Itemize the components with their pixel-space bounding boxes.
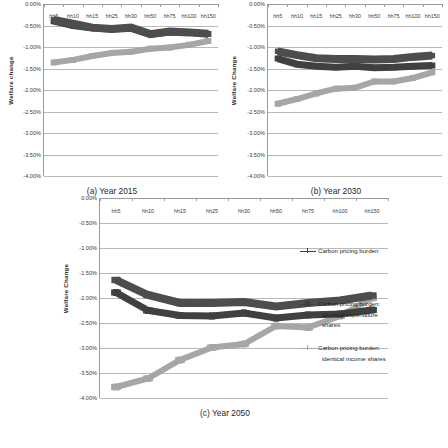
- legend-marker-square-icon: [300, 300, 316, 308]
- legend-marker-plus-icon: [300, 344, 316, 352]
- data-point-marker: [128, 49, 134, 55]
- data-point-marker: [410, 75, 416, 81]
- data-point-marker: [313, 63, 319, 69]
- legend-label: Carbon pricing burden:identical income s…: [318, 343, 386, 364]
- data-point-marker: [175, 300, 184, 306]
- y-tick-label: -2.00%: [247, 87, 265, 93]
- y-tick-label: -1.50%: [23, 66, 41, 72]
- series-2: [51, 17, 211, 37]
- y-tick-labels-b: 0.00%-0.50%-1.00%-1.50%-2.00%-2.50%-3.00…: [240, 4, 267, 176]
- data-point-marker: [294, 96, 300, 102]
- data-point-marker: [429, 63, 435, 69]
- data-point-marker: [352, 85, 358, 91]
- y-tick-labels-a: 0.00%-0.50%-1.00%-1.50%-2.00%-2.50%-3.00…: [16, 4, 43, 176]
- y-tick-label: -2.50%: [23, 109, 41, 115]
- panel-caption-a: (a) Year 2015: [4, 186, 220, 196]
- data-point-marker: [51, 17, 57, 23]
- y-tick-label: -1.00%: [247, 44, 265, 50]
- data-point-marker: [206, 31, 212, 37]
- y-tick-label: -3.00%: [247, 130, 265, 136]
- y-tick-label: 0.00%: [25, 1, 41, 7]
- gridline: [44, 176, 218, 177]
- data-point-marker: [271, 323, 281, 330]
- data-point-marker: [313, 91, 319, 97]
- data-point-marker: [275, 56, 281, 62]
- y-axis-label-a: Welfare change: [4, 4, 16, 156]
- data-point-marker: [333, 86, 339, 92]
- y-tick-label: -1.50%: [247, 66, 265, 72]
- data-point-marker: [89, 53, 95, 59]
- x-tickmark: [218, 4, 219, 7]
- data-point-marker: [430, 53, 436, 59]
- data-point-marker: [207, 344, 217, 351]
- y-tick-label: -4.00%: [79, 395, 97, 401]
- y-tick-label: -3.00%: [23, 130, 41, 136]
- y-tick-label: -0.50%: [23, 23, 41, 29]
- data-point-marker: [70, 57, 76, 63]
- y-tick-label: -1.00%: [79, 245, 97, 251]
- data-point-marker: [429, 69, 435, 75]
- y-axis-label-c: Welfare Change: [60, 198, 72, 378]
- data-point-marker: [51, 60, 57, 66]
- data-point-marker: [175, 312, 185, 319]
- series-canvas-b: [268, 4, 442, 176]
- panel-year-2015: Welfare change 0.00%-0.50%-1.00%-1.50%-2…: [4, 4, 220, 196]
- x-tickmark: [388, 198, 389, 201]
- legend-item[interactable]: Carbon pricing burden:identical income s…: [300, 343, 386, 364]
- figure-welfare-change-panels: Welfare change 0.00%-0.50%-1.00%-1.50%-2…: [0, 0, 448, 448]
- data-point-marker: [167, 45, 173, 51]
- y-axis-label-b: Welfare Change: [228, 4, 240, 156]
- data-point-marker: [271, 303, 280, 309]
- data-point-marker: [111, 289, 121, 296]
- data-point-marker: [391, 64, 397, 70]
- data-point-marker: [70, 21, 76, 27]
- y-tick-label: -3.50%: [79, 370, 97, 376]
- y-tick-label: -2.00%: [23, 87, 41, 93]
- y-axis-label-text-b: Welfare Change: [231, 55, 238, 104]
- data-point-marker: [90, 25, 96, 31]
- y-tick-label: -2.00%: [79, 295, 97, 301]
- data-point-marker: [111, 384, 121, 391]
- y-tick-label: -0.50%: [247, 23, 265, 29]
- plot-area-a: hh5hh10hh15hh25hh30hh50hh75hh100hh150: [43, 4, 218, 176]
- data-point-marker: [143, 375, 153, 382]
- y-tick-labels-c: 0.00%-0.50%-1.00%-1.50%-2.00%-2.50%-3.00…: [72, 198, 99, 398]
- data-point-marker: [391, 56, 397, 62]
- y-tick-label: -1.50%: [79, 270, 97, 276]
- legend-marker-plus-icon: [300, 247, 316, 255]
- series-canvas-a: [44, 4, 218, 176]
- data-point-marker: [143, 307, 153, 314]
- data-point-marker: [167, 29, 173, 35]
- data-point-marker: [186, 42, 192, 48]
- data-point-marker: [175, 357, 185, 364]
- y-tick-label: -3.50%: [23, 152, 41, 158]
- legend-item[interactable]: Carbon pricing burden: [300, 246, 378, 257]
- y-tick-label: -1.00%: [23, 44, 41, 50]
- data-point-marker: [207, 300, 216, 306]
- data-point-marker: [109, 26, 115, 32]
- data-point-marker: [333, 64, 339, 70]
- data-point-marker: [372, 57, 378, 63]
- data-point-marker: [147, 46, 153, 52]
- y-axis-label-text-c: Welfare Change: [63, 263, 70, 312]
- gridline: [100, 398, 388, 399]
- series-3: [51, 38, 212, 65]
- plot-wrap-a: Welfare change 0.00%-0.50%-1.00%-1.50%-2…: [4, 4, 220, 176]
- data-point-marker: [352, 63, 358, 69]
- data-point-marker: [148, 31, 154, 37]
- y-tick-label: 0.00%: [81, 195, 97, 201]
- data-point-marker: [333, 56, 339, 62]
- data-point-marker: [111, 277, 120, 283]
- data-point-marker: [239, 299, 248, 305]
- data-point-marker: [186, 30, 192, 36]
- data-point-marker: [271, 315, 281, 322]
- data-point-marker: [239, 341, 249, 348]
- data-point-marker: [109, 50, 115, 56]
- y-tick-label: -3.00%: [79, 345, 97, 351]
- legend-item[interactable]: Carbon pricing burden:identical expendit…: [300, 299, 380, 331]
- data-point-marker: [314, 55, 320, 61]
- data-point-marker: [410, 54, 416, 60]
- data-point-marker: [207, 313, 217, 320]
- data-point-marker: [275, 101, 281, 107]
- legend-label: Carbon pricing burden: [318, 246, 378, 257]
